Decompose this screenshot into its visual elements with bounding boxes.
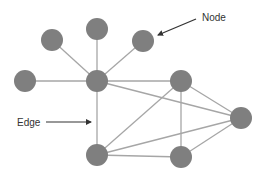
node-annotation-label: Node xyxy=(202,12,226,23)
node-far-right xyxy=(230,107,252,129)
node-leaf-left xyxy=(14,70,36,92)
node-leaf-top-center xyxy=(86,18,108,40)
node-leaf-top-right xyxy=(132,30,154,52)
node-bottom-left xyxy=(86,144,108,166)
network-diagram: Node Edge xyxy=(0,0,265,174)
node-hub xyxy=(86,70,108,92)
edge-annotation-label: Edge xyxy=(17,117,41,128)
node-annotation-arrow xyxy=(158,19,196,35)
node-leaf-top-left xyxy=(41,29,63,51)
edge-hub-far-right xyxy=(97,81,241,118)
edge-bottom-left-bottom-right xyxy=(97,155,181,157)
node-right-upper xyxy=(170,70,192,92)
node-bottom-right xyxy=(170,146,192,168)
annotations: Node Edge xyxy=(17,12,226,128)
